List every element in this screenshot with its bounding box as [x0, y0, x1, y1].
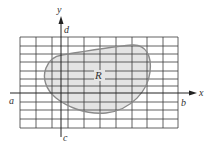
x-axis-label: x: [198, 87, 204, 98]
label-a: a: [9, 95, 14, 106]
label-b: b: [181, 97, 186, 108]
x-axis-arrow-icon: [189, 91, 197, 96]
label-d: d: [64, 24, 70, 35]
y-axis-label: y: [56, 4, 62, 15]
y-axis-arrow-icon: [59, 16, 64, 24]
label-c: c: [63, 132, 68, 143]
region-label: R: [94, 69, 102, 81]
region-grid-diagram: y x d c a b R: [0, 0, 214, 147]
